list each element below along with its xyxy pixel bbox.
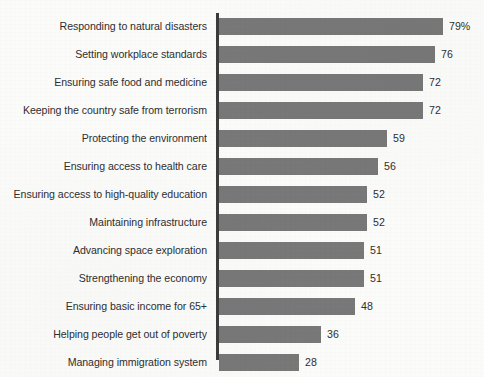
bar <box>219 270 364 287</box>
bar-row: Strengthening the economy51 <box>0 270 484 298</box>
bar-row: Ensuring access to health care56 <box>0 158 484 186</box>
category-label: Setting workplace standards <box>0 46 207 63</box>
bar <box>219 74 423 91</box>
bar <box>219 186 367 203</box>
bar-row: Protecting the environment59 <box>0 130 484 158</box>
bar-value-label: 48 <box>361 298 373 315</box>
bar-row: Ensuring safe food and medicine72 <box>0 74 484 102</box>
bar-value-label: 36 <box>327 326 339 343</box>
category-label: Helping people get out of poverty <box>0 326 207 343</box>
category-label: Ensuring safe food and medicine <box>0 74 207 91</box>
bar <box>219 326 321 343</box>
bar-value-label: 51 <box>370 270 382 287</box>
bar-value-label: 52 <box>373 214 385 231</box>
bar-row: Ensuring basic income for 65+48 <box>0 298 484 326</box>
bar <box>219 354 299 371</box>
bar <box>219 242 364 259</box>
bar-row: Managing immigration system28 <box>0 354 484 377</box>
category-label: Responding to natural disasters <box>0 18 207 35</box>
bar-value-label: 28 <box>305 354 317 371</box>
bar-row: Advancing space exploration51 <box>0 242 484 270</box>
bar-row: Keeping the country safe from terrorism7… <box>0 102 484 130</box>
bar <box>219 130 387 147</box>
bar-value-label: 72 <box>429 74 441 91</box>
category-label: Advancing space exploration <box>0 242 207 259</box>
bar-chart: Responding to natural disasters79%Settin… <box>0 0 484 377</box>
category-label: Keeping the country safe from terrorism <box>0 102 207 119</box>
bar-value-label: 72 <box>429 102 441 119</box>
bar <box>219 46 435 63</box>
bar-row: Responding to natural disasters79% <box>0 18 484 46</box>
bar-value-label: 76 <box>441 46 453 63</box>
category-label: Protecting the environment <box>0 130 207 147</box>
category-label: Ensuring basic income for 65+ <box>0 298 207 315</box>
category-label: Strengthening the economy <box>0 270 207 287</box>
bar <box>219 158 378 175</box>
category-label: Maintaining infrastructure <box>0 214 207 231</box>
bar <box>219 298 355 315</box>
bar <box>219 102 423 119</box>
bar-row: Ensuring access to high-quality educatio… <box>0 186 484 214</box>
bar-value-label: 59 <box>393 130 405 147</box>
bar-row: Helping people get out of poverty36 <box>0 326 484 354</box>
bar-value-label: 79% <box>449 18 470 35</box>
category-label: Ensuring access to health care <box>0 158 207 175</box>
bar <box>219 18 443 35</box>
bar-row: Setting workplace standards76 <box>0 46 484 74</box>
bar <box>219 214 367 231</box>
bar-value-label: 51 <box>370 242 382 259</box>
bar-row: Maintaining infrastructure52 <box>0 214 484 242</box>
category-label: Managing immigration system <box>0 354 207 371</box>
bar-value-label: 56 <box>384 158 396 175</box>
category-label: Ensuring access to high-quality educatio… <box>0 186 207 203</box>
bar-value-label: 52 <box>373 186 385 203</box>
